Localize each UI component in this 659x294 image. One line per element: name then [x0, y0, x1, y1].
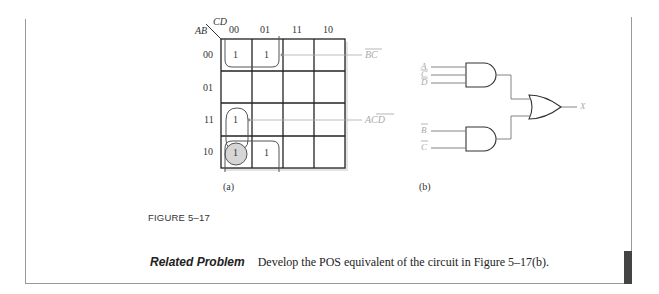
- kmap-cell-0-1: 1: [264, 49, 269, 60]
- leader-dot-bc: [281, 54, 284, 57]
- kmap-col-header-1: 01: [260, 24, 270, 35]
- related-problem-label: Related Problem: [150, 255, 245, 269]
- and-gate-1: [466, 63, 496, 87]
- kmap-cell-0-0: 1: [233, 49, 238, 60]
- kmap-col-var: CD: [213, 16, 227, 27]
- kmap-row-header-2: 11: [204, 114, 214, 125]
- input-label-b: B: [421, 125, 427, 135]
- output-label-x: X: [580, 101, 586, 111]
- kmap-term-acd: ACD: [365, 114, 385, 125]
- caption-a: (a): [223, 181, 234, 192]
- figure-drawing: [0, 0, 659, 294]
- kmap-col-header-3: 10: [323, 24, 333, 35]
- kmap-row-header-0: 00: [203, 49, 213, 60]
- caption-b: (b): [419, 181, 431, 192]
- logic-circuit: [466, 63, 561, 151]
- kmap-row-header-3: 10: [203, 146, 213, 157]
- kmap-term-bc: BC: [365, 49, 378, 60]
- related-problem: Related Problem Develop the POS equivale…: [150, 255, 549, 270]
- kmap-cell-3-1: 1: [264, 147, 269, 158]
- kmap-cell-2-0: 1: [233, 114, 238, 125]
- related-problem-text: Develop the POS equivalent of the circui…: [258, 255, 549, 269]
- input-label-d: D: [421, 77, 428, 87]
- or-gate: [529, 95, 561, 119]
- circuit-wires: [431, 67, 577, 148]
- kmap-row-var: AB: [195, 25, 207, 36]
- input-label-c2: C: [421, 142, 427, 152]
- leader-dot-acd: [248, 119, 251, 122]
- kmap-col-header-2: 11: [292, 24, 302, 35]
- kmap-row-header-1: 01: [203, 82, 213, 93]
- figure-title: FIGURE 5–17: [148, 212, 210, 223]
- kmap-cell-3-0: 1: [233, 147, 238, 158]
- kmap-col-header-0: 00: [229, 24, 239, 35]
- and-gate-2: [466, 127, 496, 151]
